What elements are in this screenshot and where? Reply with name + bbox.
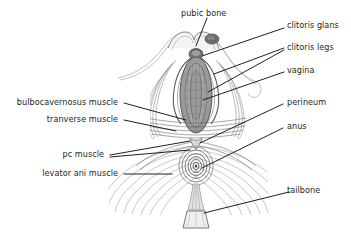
leader-pc-muscle-upper [110,141,190,155]
label-clitoris-legs: clitoris legs [287,43,334,52]
label-levator-ani-muscle: levator ani muscle [8,169,118,178]
leader-bulbocavernosus [124,103,186,120]
vagina-opening [180,57,212,133]
perineum [190,138,202,150]
label-vagina: vagina [287,66,315,75]
label-bulbocavernosus-muscle: bulbocavernosus muscle [8,98,118,107]
leader-clitoris-legs-left [208,50,284,92]
label-pubic-bone: pubic bone [181,9,226,18]
label-tranverse-muscle: tranverse muscle [8,115,118,124]
label-perineum: perineum [287,98,326,107]
label-tailbone: tailbone [287,186,320,195]
leader-tailbone [204,192,289,213]
anococcygeal-raphe [188,184,204,210]
label-anus: anus [287,122,307,131]
label-pc-muscle: pc muscle [8,150,104,159]
pubic-arch [168,32,219,50]
label-clitoris-glans: clitoris glans [287,21,339,30]
anatomy-diagram: pubic bone clitoris glans clitoris legs … [0,0,351,239]
tailbone [183,211,209,228]
